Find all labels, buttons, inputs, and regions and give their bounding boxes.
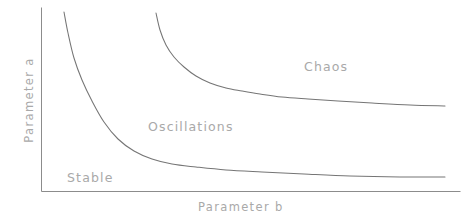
regime-diagram-figure: Stable Oscillations Chaos Parameter b Pa…	[0, 0, 467, 221]
x-axis-label: Parameter b	[198, 200, 284, 214]
stable-oscillations-boundary-curve	[64, 12, 445, 177]
plot-canvas	[0, 0, 467, 221]
region-label-chaos: Chaos	[304, 59, 348, 74]
region-label-oscillations: Oscillations	[148, 119, 234, 134]
region-label-stable: Stable	[67, 170, 114, 185]
oscillations-chaos-boundary-curve	[156, 13, 445, 106]
y-axis-label: Parameter a	[22, 20, 36, 180]
axis-lines	[42, 8, 461, 192]
